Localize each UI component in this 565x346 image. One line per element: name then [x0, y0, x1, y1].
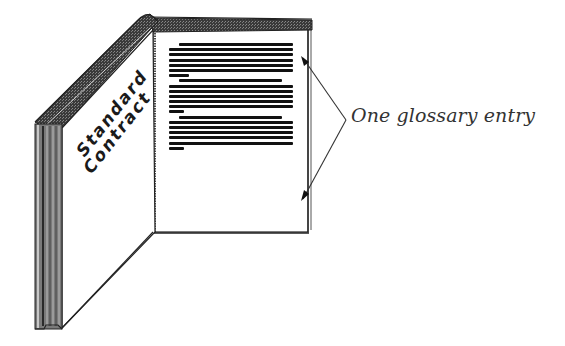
text-line [169, 69, 293, 72]
text-line [169, 142, 293, 145]
text-line [169, 110, 184, 113]
text-line [169, 131, 293, 134]
text-line [169, 126, 293, 129]
text-line [169, 48, 293, 51]
page-text-block [169, 43, 293, 152]
text-line [169, 90, 293, 93]
text-paragraph [169, 116, 293, 150]
text-line [169, 121, 293, 124]
text-line [169, 105, 293, 108]
text-line [179, 116, 282, 119]
text-line [169, 64, 293, 67]
text-line [169, 147, 184, 150]
text-line [169, 85, 293, 88]
text-line [169, 95, 293, 98]
text-line [169, 74, 189, 77]
text-paragraph [169, 43, 293, 77]
text-line [169, 59, 293, 62]
text-line [169, 53, 293, 56]
text-line [169, 100, 293, 103]
text-line [179, 43, 293, 46]
text-line [179, 79, 282, 82]
book-diagram: Standard Contract One glossary entry [0, 0, 565, 346]
text-paragraph [169, 79, 293, 113]
annotation-label: One glossary entry [351, 104, 535, 126]
text-line [169, 136, 293, 139]
